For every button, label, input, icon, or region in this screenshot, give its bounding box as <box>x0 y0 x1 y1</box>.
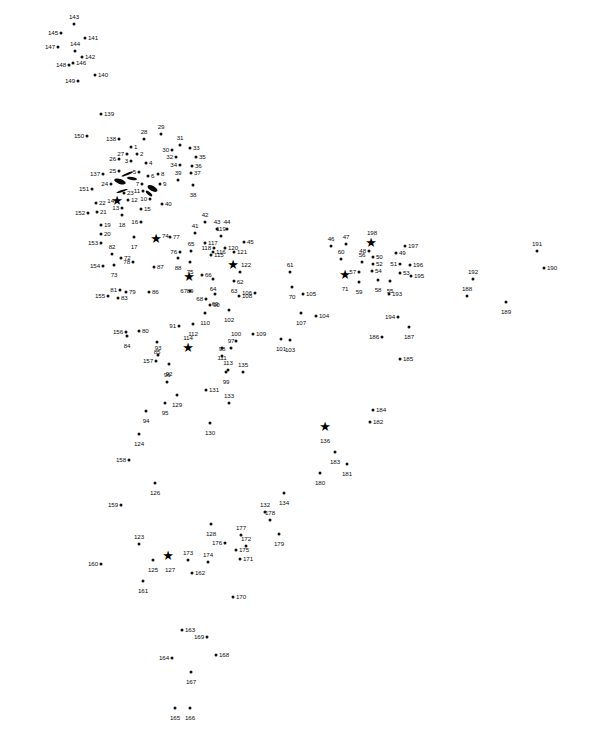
puzzle-dot[interactable] <box>155 360 158 363</box>
puzzle-dot[interactable] <box>141 183 144 186</box>
puzzle-dot[interactable] <box>319 472 322 475</box>
puzzle-dot[interactable] <box>209 304 212 307</box>
puzzle-dot[interactable] <box>100 563 103 566</box>
puzzle-dot[interactable] <box>95 202 98 205</box>
puzzle-dot[interactable] <box>346 463 349 466</box>
puzzle-dot[interactable] <box>157 354 160 357</box>
puzzle-dot[interactable] <box>171 657 174 660</box>
puzzle-dot[interactable] <box>466 295 469 298</box>
puzzle-dot[interactable] <box>100 233 103 236</box>
puzzle-dot[interactable] <box>536 250 539 253</box>
puzzle-dot[interactable] <box>283 492 286 495</box>
puzzle-dot[interactable] <box>86 135 89 138</box>
puzzle-dot[interactable] <box>191 572 194 575</box>
puzzle-dot[interactable] <box>330 245 333 248</box>
puzzle-dot[interactable] <box>94 74 97 77</box>
puzzle-dot[interactable] <box>113 264 116 267</box>
puzzle-dot[interactable] <box>74 50 77 53</box>
puzzle-dot[interactable] <box>409 264 412 267</box>
puzzle-dot[interactable] <box>205 298 208 301</box>
puzzle-star-dot[interactable]: ★ <box>150 232 163 245</box>
puzzle-dot[interactable] <box>96 211 99 214</box>
puzzle-dot[interactable] <box>87 212 90 215</box>
puzzle-dot[interactable] <box>389 280 392 283</box>
puzzle-dot[interactable] <box>372 263 375 266</box>
puzzle-dot[interactable] <box>252 333 255 336</box>
puzzle-dot[interactable] <box>136 153 139 156</box>
puzzle-star-dot[interactable]: ★ <box>319 420 332 433</box>
puzzle-dot[interactable] <box>189 147 192 150</box>
puzzle-dot[interactable] <box>340 258 343 261</box>
puzzle-dot[interactable] <box>194 232 197 235</box>
puzzle-dot[interactable] <box>235 340 238 343</box>
puzzle-dot[interactable] <box>397 316 400 319</box>
puzzle-star-dot[interactable]: ★ <box>365 236 378 249</box>
puzzle-dot[interactable] <box>102 173 105 176</box>
puzzle-dot[interactable] <box>254 292 257 295</box>
puzzle-dot[interactable] <box>334 451 337 454</box>
puzzle-dot[interactable] <box>238 295 241 298</box>
puzzle-dot[interactable] <box>179 144 182 147</box>
puzzle-dot[interactable] <box>192 184 195 187</box>
puzzle-dot[interactable] <box>130 160 133 163</box>
puzzle-dot[interactable] <box>77 80 80 83</box>
puzzle-dot[interactable] <box>377 279 380 282</box>
puzzle-dot[interactable] <box>142 190 145 193</box>
puzzle-dot[interactable] <box>126 335 129 338</box>
puzzle-dot[interactable] <box>119 289 122 292</box>
puzzle-dot[interactable] <box>410 275 413 278</box>
puzzle-dot[interactable] <box>358 281 361 284</box>
puzzle-dot[interactable] <box>120 504 123 507</box>
puzzle-dot[interactable] <box>189 261 192 264</box>
puzzle-dot[interactable] <box>242 371 245 374</box>
puzzle-dot[interactable] <box>372 409 375 412</box>
puzzle-dot[interactable] <box>152 559 155 562</box>
puzzle-dot[interactable] <box>133 236 136 239</box>
puzzle-dot[interactable] <box>176 394 179 397</box>
puzzle-dot[interactable] <box>191 165 194 168</box>
puzzle-dot[interactable] <box>227 369 230 372</box>
puzzle-dot[interactable] <box>472 278 475 281</box>
puzzle-dot[interactable] <box>269 519 272 522</box>
puzzle-dot[interactable] <box>369 421 372 424</box>
puzzle-dot[interactable] <box>138 171 141 174</box>
puzzle-dot[interactable] <box>132 261 135 264</box>
puzzle-dot[interactable] <box>143 138 146 141</box>
puzzle-dot[interactable] <box>72 62 75 65</box>
puzzle-star-dot[interactable]: ★ <box>339 268 352 281</box>
puzzle-dot[interactable] <box>190 172 193 175</box>
puzzle-dot[interactable] <box>205 389 208 392</box>
puzzle-dot[interactable] <box>118 170 121 173</box>
puzzle-dot[interactable] <box>118 138 121 141</box>
puzzle-dot[interactable] <box>224 247 227 250</box>
puzzle-dot[interactable] <box>138 433 141 436</box>
puzzle-dot[interactable] <box>169 236 172 239</box>
puzzle-dot[interactable] <box>291 286 294 289</box>
puzzle-dot[interactable] <box>166 381 169 384</box>
puzzle-dot[interactable] <box>179 164 182 167</box>
puzzle-dot[interactable] <box>175 156 178 159</box>
puzzle-dot[interactable] <box>117 297 120 300</box>
puzzle-dot[interactable] <box>84 37 87 40</box>
puzzle-dot[interactable] <box>381 336 384 339</box>
puzzle-dot[interactable] <box>289 271 292 274</box>
puzzle-dot[interactable] <box>177 257 180 260</box>
puzzle-star-dot[interactable]: ★ <box>111 194 124 207</box>
puzzle-dot[interactable] <box>280 338 283 341</box>
puzzle-dot[interactable] <box>100 242 103 245</box>
puzzle-dot[interactable] <box>201 274 204 277</box>
puzzle-dot[interactable] <box>145 410 148 413</box>
puzzle-dot[interactable] <box>125 331 128 334</box>
puzzle-dot[interactable] <box>235 549 238 552</box>
puzzle-dot[interactable] <box>404 245 407 248</box>
puzzle-dot[interactable] <box>190 250 193 253</box>
puzzle-dot[interactable] <box>140 221 143 224</box>
puzzle-dot[interactable] <box>239 558 242 561</box>
puzzle-dot[interactable] <box>118 158 121 161</box>
puzzle-dot[interactable] <box>240 534 243 537</box>
puzzle-dot[interactable] <box>127 199 130 202</box>
puzzle-dot[interactable] <box>138 543 141 546</box>
puzzle-dot[interactable] <box>168 363 171 366</box>
puzzle-dot[interactable] <box>302 293 305 296</box>
puzzle-dot[interactable] <box>204 221 207 224</box>
